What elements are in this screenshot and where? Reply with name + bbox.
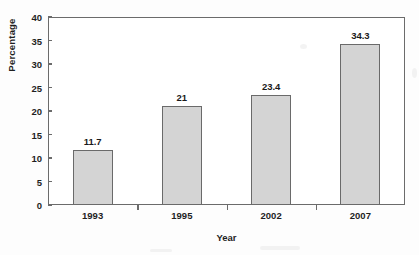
y-axis-tick-mark (48, 87, 52, 88)
y-axis-tick-label: 40 (31, 12, 42, 23)
x-axis-tick-mark (316, 205, 317, 210)
scan-artifact-icon (412, 68, 417, 78)
bar (162, 106, 202, 205)
bar-value-label: 21 (147, 92, 217, 103)
y-axis-tick-mark (48, 134, 52, 135)
y-axis-tick-label: 0 (37, 200, 42, 211)
x-axis-tick-label: 1995 (147, 210, 217, 221)
bar (340, 44, 380, 205)
scan-artifact-icon (260, 246, 300, 250)
y-axis-tick-label: 20 (31, 106, 42, 117)
scan-artifact-icon (300, 44, 307, 49)
y-axis-tick-mark (48, 181, 52, 182)
y-axis-tick-mark (48, 110, 52, 111)
y-axis-tick-label: 25 (31, 83, 42, 94)
bar-chart: Percentage 403530252015105011.7199321199… (0, 0, 419, 255)
y-axis-tick-mark (48, 16, 52, 17)
y-axis-tick-mark (48, 63, 52, 64)
x-axis-tick-label: 1993 (58, 210, 128, 221)
x-axis-tick-label: 2002 (236, 210, 306, 221)
y-axis-tick-label: 35 (31, 36, 42, 47)
y-axis-tick-mark (48, 204, 52, 205)
y-axis-tick-label: 15 (31, 130, 42, 141)
scan-artifact-icon (150, 249, 172, 252)
y-axis-tick-label: 30 (31, 59, 42, 70)
x-axis-tick-mark (137, 205, 138, 210)
y-axis-title: Percentage (6, 0, 17, 100)
bar-value-label: 11.7 (58, 136, 128, 147)
y-axis-tick-mark (48, 40, 52, 41)
x-axis-title: Year (48, 232, 405, 243)
bar-value-label: 34.3 (325, 30, 395, 41)
y-axis-tick-label: 10 (31, 153, 42, 164)
y-axis-tick-mark (48, 157, 52, 158)
bar-value-label: 23.4 (236, 81, 306, 92)
bar (251, 95, 291, 205)
x-axis-tick-mark (227, 205, 228, 210)
y-axis-tick-label: 5 (37, 177, 42, 188)
x-axis-tick-label: 2007 (325, 210, 395, 221)
bar (73, 150, 113, 205)
